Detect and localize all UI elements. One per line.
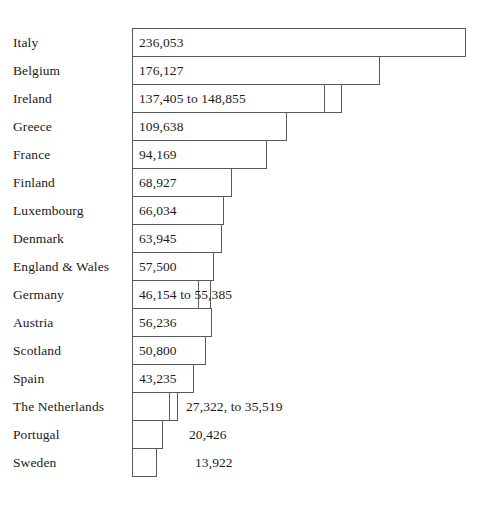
bar-segment-main[interactable] <box>132 448 157 477</box>
chart-row: Ireland137,405 to 148,855 <box>0 84 492 113</box>
category-label: Austria <box>0 308 119 337</box>
bar-area <box>132 392 178 421</box>
chart-row: Spain43,235 <box>0 364 492 393</box>
category-label: Greece <box>0 112 119 141</box>
category-label: Germany <box>0 280 119 309</box>
bar-value-label: 43,235 <box>139 364 177 393</box>
category-label: Scotland <box>0 336 119 365</box>
chart-row: Luxembourg66,034 <box>0 196 492 225</box>
chart-row: England & Wales57,500 <box>0 252 492 281</box>
bar-value-label: 137,405 to 148,855 <box>139 84 246 113</box>
category-label: Finland <box>0 168 119 197</box>
chart-row: Greece109,638 <box>0 112 492 141</box>
chart-row: Austria56,236 <box>0 308 492 337</box>
bar-area <box>132 420 163 449</box>
bar-segment-range-extension[interactable] <box>169 392 178 421</box>
bar-value-label: 94,169 <box>139 140 177 169</box>
bar-value-label: 66,034 <box>139 196 177 225</box>
bar-segment-main[interactable] <box>132 392 170 421</box>
chart-row: Denmark63,945 <box>0 224 492 253</box>
chart-row: Portugal20,426 <box>0 420 492 449</box>
bar-value-label: 68,927 <box>139 168 177 197</box>
bar-value-label: 46,154 to 55,385 <box>139 280 232 309</box>
chart-row: Germany46,154 to 55,385 <box>0 280 492 309</box>
bar-area <box>132 448 157 477</box>
bar-value-label: 20,426 <box>189 420 227 449</box>
category-label: Ireland <box>0 84 119 113</box>
category-label: France <box>0 140 119 169</box>
chart-row: Scotland50,800 <box>0 336 492 365</box>
category-label: Luxembourg <box>0 196 119 225</box>
chart-row: The Netherlands27,322, to 35,519 <box>0 392 492 421</box>
bar-value-label: 56,236 <box>139 308 177 337</box>
bar-value-label: 13,922 <box>195 448 233 477</box>
bar-value-label: 27,322, to 35,519 <box>186 392 283 421</box>
chart-row: Finland68,927 <box>0 168 492 197</box>
chart-row: Sweden13,922 <box>0 448 492 477</box>
category-label: Belgium <box>0 56 119 85</box>
bar-value-label: 57,500 <box>139 252 177 281</box>
bar-value-label: 176,127 <box>139 56 184 85</box>
category-label: The Netherlands <box>0 392 119 421</box>
bar-value-label: 63,945 <box>139 224 177 253</box>
bar-value-label: 236,053 <box>139 28 184 57</box>
bar-value-label: 109,638 <box>139 112 184 141</box>
bar-value-label: 50,800 <box>139 336 177 365</box>
category-label: Italy <box>0 28 119 57</box>
category-label: Spain <box>0 364 119 393</box>
category-label: Portugal <box>0 420 119 449</box>
chart-row: Belgium176,127 <box>0 56 492 85</box>
chart-row: Italy236,053 <box>0 28 492 57</box>
chart-row: France94,169 <box>0 140 492 169</box>
category-label: Sweden <box>0 448 119 477</box>
horizontal-bar-chart: Italy236,053Belgium176,127Ireland137,405… <box>0 0 492 509</box>
category-label: England & Wales <box>0 252 119 281</box>
bar-segment-main[interactable] <box>132 420 163 449</box>
bar-segment-range-extension[interactable] <box>324 84 342 113</box>
category-label: Denmark <box>0 224 119 253</box>
